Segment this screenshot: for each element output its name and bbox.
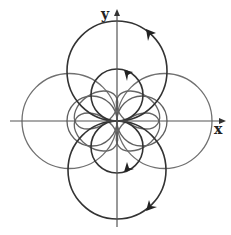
y-axis-label: y [100, 6, 110, 22]
y-axis-arrow-icon [114, 9, 120, 16]
x-axis-label: x [214, 121, 223, 137]
arrow-small-top-icon [124, 70, 133, 81]
polar-diagram: y x [0, 0, 231, 235]
